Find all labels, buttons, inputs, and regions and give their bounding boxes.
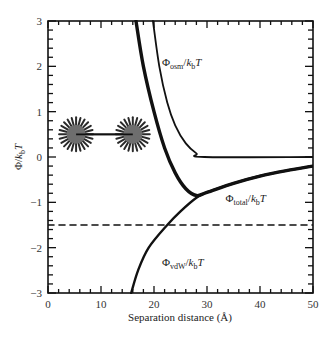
curve-label: Φtotal/kbT bbox=[226, 192, 267, 207]
x-axis-label: Separation distance (Å) bbox=[128, 311, 232, 324]
y-tick-label: 0 bbox=[37, 151, 43, 163]
curve-labels: Φosm/kbTΦtotal/kbTΦvdW/kbT bbox=[162, 56, 267, 270]
x-tick-label: 50 bbox=[308, 298, 320, 310]
y-axis-label: Φ/kbT bbox=[12, 143, 27, 170]
x-tick-label: 10 bbox=[96, 298, 108, 310]
y-tick-label: 2 bbox=[37, 60, 43, 72]
x-tick-label: 30 bbox=[202, 298, 214, 310]
brush-particles-illustration bbox=[59, 117, 150, 151]
y-tick-label: 3 bbox=[37, 15, 43, 27]
y-tick-label: −3 bbox=[30, 287, 42, 299]
curve-label: Φosm/kbT bbox=[162, 56, 202, 71]
series-osmkbt bbox=[153, 21, 313, 157]
y-tick-label: −2 bbox=[30, 242, 42, 254]
curve-label: ΦvdW/kbT bbox=[162, 256, 205, 271]
y-tick-label: −1 bbox=[30, 196, 42, 208]
series-vdwkbt bbox=[131, 166, 313, 293]
svg-text:Φ/kbT: Φ/kbT bbox=[12, 143, 27, 170]
potential-vs-separation-chart: 010203040503210−1−2−3 Φosm/kbTΦtotal/kbT… bbox=[0, 0, 329, 337]
x-tick-label: 40 bbox=[255, 298, 267, 310]
x-tick-label: 20 bbox=[149, 298, 161, 310]
y-tick-label: 1 bbox=[37, 106, 43, 118]
x-tick-label: 0 bbox=[45, 298, 51, 310]
